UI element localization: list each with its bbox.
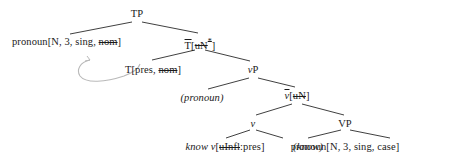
head-movement-arrowhead xyxy=(85,56,90,61)
know-struck-feature: uInfl xyxy=(219,141,240,152)
edge-v-to-know-left xyxy=(226,130,250,138)
node-v-head: v xyxy=(251,118,256,130)
node-pronoun-trace: (pronoun) xyxy=(180,92,223,104)
edge-vp-to-pronoun-trace xyxy=(208,78,249,89)
v-bar-close-bracket: ] xyxy=(306,90,310,101)
node-tp-label: TP xyxy=(131,8,143,19)
edge-tp-to-subject xyxy=(70,22,132,34)
t-bar-close-bracket: ] xyxy=(212,40,216,51)
subject-prefix: pronoun[N, 3, sing, xyxy=(12,36,99,47)
know-close-bracket: ] xyxy=(261,141,265,152)
subject-suffix: ] xyxy=(118,36,122,47)
t-head-prefix: T[pres, xyxy=(125,64,158,75)
know-feature-value: :pres xyxy=(240,141,261,152)
tree-edge-layer xyxy=(0,0,458,161)
node-object-pronoun: pronoun[N, 3, sing, case] xyxy=(291,141,400,153)
v-bar-head-symbol: v xyxy=(284,90,289,102)
v-head-label: v xyxy=(251,118,256,129)
node-vp-big: VP xyxy=(338,118,352,130)
edge-v-to-know-right xyxy=(256,130,283,138)
node-v-bar: v[uN] xyxy=(284,90,309,102)
t-head-struck-feature: nom xyxy=(158,64,177,75)
t-bar-head-symbol: T xyxy=(185,40,192,52)
edge-vbar-to-VP xyxy=(302,104,344,115)
node-subject-pronoun: pronoun[N, 3, sing, nom] xyxy=(12,36,121,48)
subject-struck-feature: nom xyxy=(99,36,118,47)
edge-tbar-to-vp xyxy=(205,50,250,61)
edge-vp-to-vbar xyxy=(258,78,295,87)
vp-small-p: P xyxy=(252,64,258,75)
node-tp: TP xyxy=(131,8,143,20)
t-bar-struck-feature: uN xyxy=(195,40,208,51)
edge-vbar-to-v xyxy=(256,104,292,115)
edge-tbar-to-thead xyxy=(152,50,195,60)
t-head-suffix: ] xyxy=(177,64,181,75)
edge-tp-to-tbar xyxy=(142,22,198,33)
object-pronoun-label: pronoun[N, 3, sing, case] xyxy=(291,141,400,152)
know-word: know xyxy=(185,141,210,152)
pronoun-trace-label: (pronoun) xyxy=(180,92,223,103)
edge-VP-to-know-trace xyxy=(308,130,341,138)
edge-VP-to-object xyxy=(350,130,390,138)
node-vp-small: vP xyxy=(248,64,259,76)
node-t-head: T[pres, nom] xyxy=(125,64,181,76)
vp-big-label: VP xyxy=(338,118,352,129)
syntax-tree-figure: TP pronoun[N, 3, sing, nom] T[uN*] T[pre… xyxy=(0,0,458,161)
v-bar-struck-feature: uN xyxy=(293,90,306,101)
node-know-verb: know v[uInfl:pres] xyxy=(185,141,264,153)
node-t-bar: T[uN*] xyxy=(185,36,216,52)
